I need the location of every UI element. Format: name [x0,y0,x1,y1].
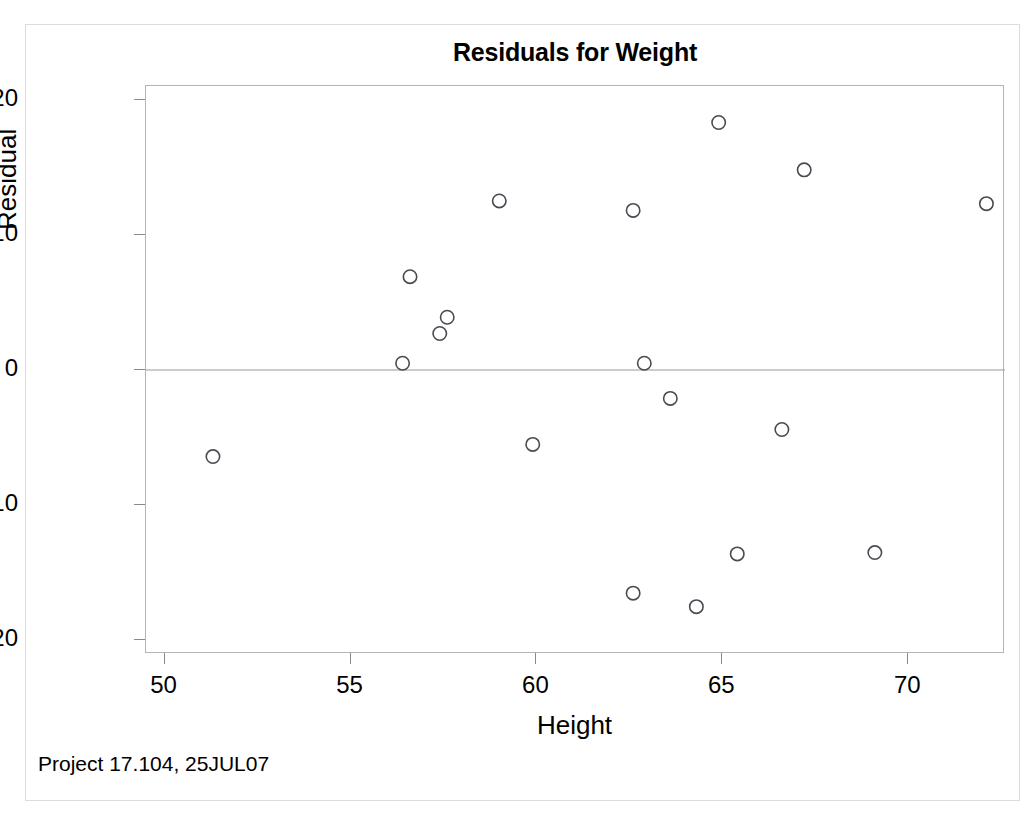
data-point-marker [638,357,651,370]
chart-title: Residuals for Weight [145,38,1005,67]
data-point-marker [664,392,677,405]
data-point-marker [526,438,539,451]
data-point-marker [626,586,639,599]
data-point-marker [868,546,881,559]
data-point-marker [712,116,725,129]
data-point-marker [493,194,506,207]
y-tick-mark [134,369,145,370]
data-point-marker [206,450,219,463]
y-tick-label: -10 [0,491,18,515]
x-tick-label: 55 [305,673,395,697]
x-tick-label: 60 [490,673,580,697]
scatter-plot-svg [146,86,1005,654]
y-tick-label: 20 [0,86,18,110]
data-point-markers [206,116,993,614]
y-tick-mark [134,504,145,505]
data-point-marker [441,311,454,324]
y-axis-title: Residual [0,30,23,230]
plot-area [145,85,1004,653]
data-point-marker [433,327,446,340]
data-point-marker [690,600,703,613]
y-tick-mark [134,639,145,640]
x-tick-mark [164,653,165,664]
y-tick-label: 0 [0,356,18,380]
x-tick-mark [350,653,351,664]
data-point-marker [396,357,409,370]
y-tick-label: 10 [0,221,18,245]
x-tick-mark [721,653,722,664]
y-tick-mark [134,99,145,100]
x-tick-label: 65 [676,673,766,697]
x-tick-label: 70 [862,673,952,697]
x-tick-label: 50 [119,673,209,697]
footer-note: Project 17.104, 25JUL07 [38,752,269,776]
data-point-marker [797,163,810,176]
data-point-marker [980,197,993,210]
chart-page: Residuals for Weight Residual 20100-10-2… [0,0,1034,824]
data-point-marker [775,423,788,436]
x-tick-mark [907,653,908,664]
y-tick-label: -20 [0,626,18,650]
data-point-marker [626,204,639,217]
y-tick-mark [134,234,145,235]
x-axis-title: Height [145,710,1004,741]
data-point-marker [731,547,744,560]
x-tick-mark [535,653,536,664]
data-point-marker [403,270,416,283]
